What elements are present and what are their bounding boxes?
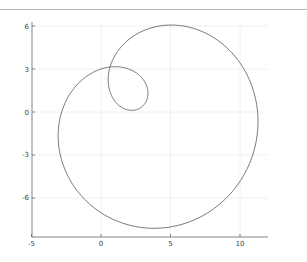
x-tick-label: 5: [168, 240, 172, 248]
y-tick-label: -6: [22, 194, 30, 202]
y-tick-label: 0: [25, 109, 29, 117]
chart-plot-area: 630-3-6 -50510: [0, 0, 307, 262]
x-tick-label: 10: [236, 240, 245, 248]
y-tick-label: 6: [25, 23, 30, 31]
x-tick-label: -5: [28, 240, 35, 248]
x-axis: -50510: [28, 234, 268, 248]
x-tick-label: 0: [99, 240, 103, 248]
y-axis: 630-3-6: [22, 22, 35, 237]
y-tick-label: 3: [25, 66, 29, 74]
grid-lines: [32, 22, 268, 237]
y-tick-label: -3: [22, 151, 29, 159]
